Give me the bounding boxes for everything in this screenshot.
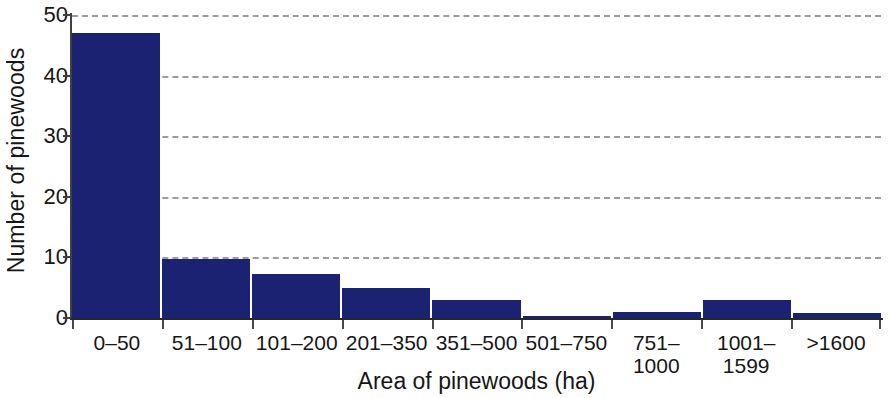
x-axis-tick-mark	[701, 320, 703, 329]
bar	[251, 274, 341, 318]
bar	[161, 259, 251, 318]
x-axis-tick-mark	[879, 320, 881, 329]
y-axis-tick-mark	[63, 196, 71, 198]
y-axis-tick-mark	[63, 135, 71, 137]
x-axis-tick-mark	[72, 320, 74, 329]
plot-area	[72, 15, 881, 318]
x-axis-tick-mark	[252, 320, 254, 329]
y-axis-tick-labels: 01020304050	[34, 15, 68, 318]
x-axis-tick-mark	[162, 320, 164, 329]
y-axis-title: Number of pinewoods	[0, 0, 34, 320]
y-axis-tick-mark	[63, 317, 71, 319]
x-axis-tick-mark	[791, 320, 793, 329]
y-axis-tick-mark	[63, 75, 71, 77]
y-axis-tick-mark	[63, 14, 71, 16]
bar	[792, 313, 881, 318]
x-axis-tick-mark	[342, 320, 344, 329]
bar	[702, 300, 792, 318]
bar	[341, 288, 431, 318]
x-axis-tick-mark	[432, 320, 434, 329]
x-axis-title: Area of pinewoods (ha)	[72, 368, 881, 395]
y-axis-title-text: Number of pinewoods	[4, 47, 31, 273]
bar	[431, 300, 521, 318]
bar	[522, 316, 612, 318]
x-axis-tick-mark	[521, 320, 523, 329]
histogram-figure: Number of pinewoods 01020304050 0–5051–1…	[0, 0, 889, 398]
y-axis-tick-mark	[63, 256, 71, 258]
bar-series	[72, 15, 881, 318]
bar	[612, 312, 702, 318]
x-axis-tick-mark	[611, 320, 613, 329]
bar	[72, 33, 161, 318]
x-axis-tick-marks	[72, 320, 881, 329]
